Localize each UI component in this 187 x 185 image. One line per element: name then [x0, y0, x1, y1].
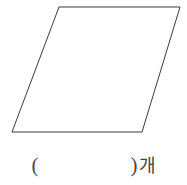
worksheet-figure-page: ( ) 개	[0, 0, 187, 185]
unit-label: 개	[139, 157, 156, 175]
close-paren: )	[131, 155, 138, 176]
answer-blank-line: ( ) 개	[0, 148, 187, 182]
open-paren: (	[32, 155, 39, 176]
parallelogram-figure	[0, 0, 187, 140]
parallelogram-outline	[12, 7, 180, 132]
answer-row: ( ) 개	[32, 155, 156, 176]
